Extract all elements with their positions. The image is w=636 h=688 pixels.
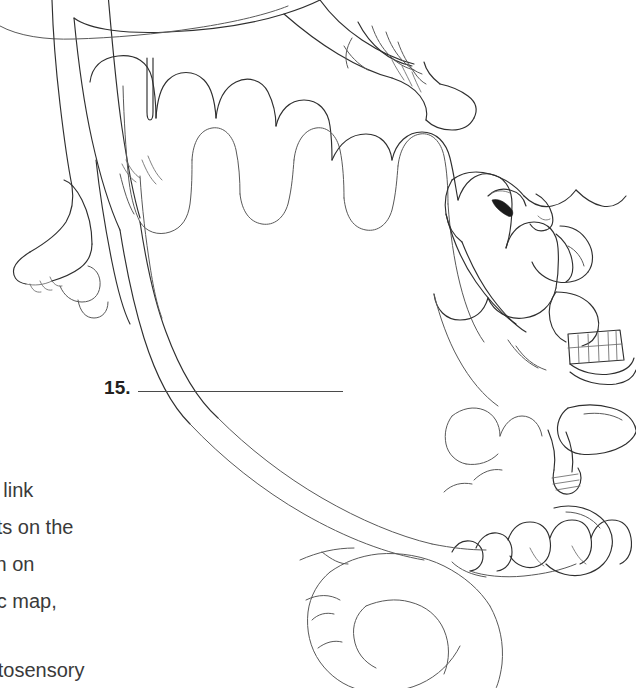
item-number-15: 15. — [104, 377, 131, 399]
homunculus-head — [445, 172, 626, 242]
caption-line-3: own on — [0, 546, 230, 583]
homunculus-jaw — [549, 292, 598, 346]
caption-paragraph-continued: matosensory — [0, 652, 240, 688]
caption-line-2: oints on the — [0, 509, 230, 546]
caption-tail-line-1: matosensory — [0, 652, 240, 688]
cortex-lower-mass — [308, 554, 503, 688]
cortex-right-arc — [332, 132, 558, 320]
caption-paragraph: the link oints on the own on opic map, — [0, 472, 230, 620]
homunculus-hand-fingers — [284, 0, 476, 130]
homunculus-lower-contour — [190, 418, 486, 560]
homunculus-tongue — [557, 405, 636, 455]
worksheet-page: 15. the link oints on the own on opic ma… — [0, 0, 636, 688]
homunculus-thigh — [96, 160, 162, 324]
homunculus-nose — [530, 194, 553, 231]
caption-line-4: opic map, — [0, 583, 230, 620]
homunculus-leg — [14, 0, 73, 292]
caption-line-1: the link — [0, 472, 230, 509]
homunculus-foot-toes — [52, 180, 108, 318]
homunculus-eye — [488, 189, 526, 216]
cortex-sulci — [123, 86, 448, 234]
answer-write-in-line-15[interactable] — [138, 391, 343, 392]
cortex-lower-left-curl — [300, 548, 354, 648]
homunculus-neck — [446, 214, 546, 370]
homunculus-wrist-band — [548, 430, 581, 494]
homunculus-trunk-contour — [0, 0, 320, 230]
cortex-mid-right-curls — [444, 408, 542, 492]
homunculus-lips — [532, 226, 593, 283]
cortex-gyri-upper — [90, 56, 332, 160]
answer-blank-15[interactable]: 15. — [104, 377, 343, 399]
homunculus-toes-cluster — [452, 520, 632, 577]
homunculus-teeth — [568, 330, 636, 385]
homunculus-big-toe — [546, 506, 612, 576]
